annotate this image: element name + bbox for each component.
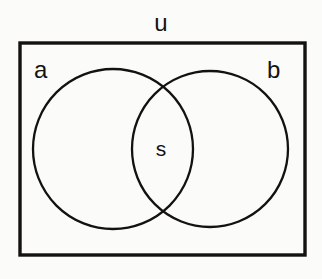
set-a-label: a <box>34 58 47 82</box>
intersection-label: s <box>0 138 322 159</box>
venn-diagram-figure: u a b s <box>0 0 322 279</box>
set-b-label: b <box>267 58 280 82</box>
universal-set-label: u <box>0 11 322 35</box>
